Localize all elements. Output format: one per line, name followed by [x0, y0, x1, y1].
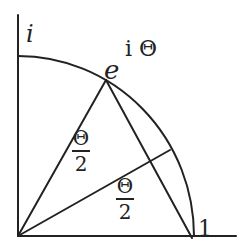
half-angle-upper-numerator: Θ: [73, 128, 89, 148]
half-angle-lower-numerator: Θ: [117, 176, 133, 196]
label-one: 1: [198, 218, 212, 240]
label-e: e: [104, 57, 119, 83]
half-angle-upper: Θ 2: [72, 128, 90, 174]
half-angle-lower-denominator: 2: [119, 202, 132, 222]
label-exponent: i Θ: [125, 38, 157, 60]
half-angle-upper-denominator: 2: [75, 154, 88, 174]
half-angle-lower: Θ 2: [116, 176, 134, 222]
label-i: i: [26, 22, 34, 46]
angle-bisector: [18, 150, 170, 236]
radius-to-e-itheta: [18, 80, 106, 236]
